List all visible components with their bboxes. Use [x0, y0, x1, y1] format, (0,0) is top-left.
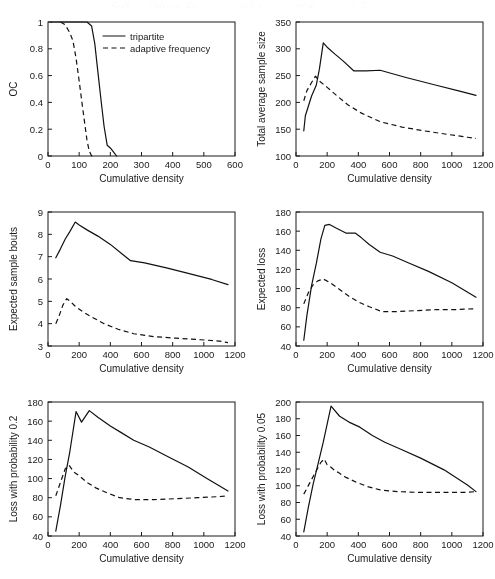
x-tick-label: 1000 — [193, 349, 214, 360]
y-axis-title: Loss with probability 0.05 — [256, 412, 267, 525]
legend-label: tripartite — [130, 31, 164, 42]
y-tick-label: 120 — [275, 464, 291, 475]
series-line-tripartite — [304, 43, 476, 131]
y-tick-label: 0.8 — [30, 43, 43, 54]
x-tick-label: 200 — [102, 159, 118, 170]
y-tick-label: 60 — [32, 511, 43, 522]
y-tick-label: 100 — [275, 480, 291, 491]
x-tick-label: 600 — [382, 159, 398, 170]
series-line-tripartite — [56, 411, 228, 532]
x-tick-label: 600 — [382, 349, 398, 360]
x-tick-label: 1000 — [441, 159, 462, 170]
y-tick-label: 160 — [275, 430, 291, 441]
x-axis-title: Cumulative density — [347, 363, 431, 374]
x-tick-label: 0 — [293, 159, 298, 170]
x-tick-label: 600 — [382, 539, 398, 550]
y-tick-label: 80 — [32, 492, 43, 503]
figure-panel-grid: 010020030040050060000.20.40.60.81Cumulat… — [0, 0, 495, 579]
y-tick-label: 1 — [38, 17, 43, 28]
y-tick-label: 300 — [275, 43, 291, 54]
x-axis-title: Cumulative density — [99, 363, 183, 374]
x-tick-label: 200 — [71, 349, 87, 360]
x-tick-label: 1200 — [224, 349, 245, 360]
series-line-adaptive-frequency — [304, 279, 476, 312]
y-tick-label: 120 — [275, 264, 291, 275]
x-axis-title: Cumulative density — [99, 553, 183, 564]
series-line-adaptive-frequency — [60, 22, 94, 156]
chart-panel-total-average-sample-size: 020040060080010001200100150200250300350C… — [248, 8, 495, 198]
chart-panel-loss-probability-0-2: 0200400600800100012004060801001201401601… — [0, 388, 247, 578]
y-tick-label: 140 — [27, 435, 43, 446]
x-tick-label: 0 — [45, 159, 50, 170]
y-tick-label: 0 — [38, 151, 43, 162]
chart-panel-expected-sample-bouts: 0200400600800100012003456789Cumulative d… — [0, 198, 247, 388]
y-tick-label: 180 — [275, 207, 291, 218]
y-axis-title: Expected loss — [256, 248, 267, 310]
x-axis-title: Cumulative density — [347, 553, 431, 564]
y-tick-label: 100 — [27, 473, 43, 484]
y-tick-label: 140 — [275, 447, 291, 458]
x-tick-label: 800 — [413, 349, 429, 360]
series-line-tripartite — [304, 224, 476, 340]
y-tick-label: 0.6 — [30, 70, 43, 81]
x-tick-label: 1200 — [472, 349, 493, 360]
y-tick-label: 100 — [275, 283, 291, 294]
y-tick-label: 0.4 — [30, 97, 43, 108]
y-tick-label: 200 — [275, 97, 291, 108]
plot-frame — [296, 212, 483, 346]
y-tick-label: 40 — [280, 531, 291, 542]
x-tick-label: 400 — [350, 349, 366, 360]
y-tick-label: 160 — [27, 416, 43, 427]
x-tick-label: 200 — [319, 349, 335, 360]
y-tick-label: 4 — [38, 318, 43, 329]
series-line-tripartite — [304, 406, 476, 532]
y-tick-label: 5 — [38, 296, 43, 307]
x-tick-label: 0 — [45, 349, 50, 360]
series-line-tripartite — [56, 222, 228, 285]
series-line-adaptive-frequency — [304, 76, 476, 138]
x-tick-label: 800 — [165, 349, 181, 360]
x-tick-label: 1200 — [224, 539, 245, 550]
series-line-adaptive-frequency — [56, 465, 228, 499]
x-tick-label: 1000 — [193, 539, 214, 550]
y-tick-label: 6 — [38, 274, 43, 285]
y-tick-label: 250 — [275, 70, 291, 81]
y-tick-label: 9 — [38, 207, 43, 218]
y-tick-label: 120 — [27, 454, 43, 465]
x-tick-label: 0 — [293, 349, 298, 360]
x-tick-label: 1000 — [441, 349, 462, 360]
y-axis-title: Expected sample bouts — [8, 227, 19, 331]
y-tick-label: 0.2 — [30, 124, 43, 135]
plot-frame — [48, 212, 235, 346]
x-tick-label: 1200 — [472, 159, 493, 170]
y-tick-label: 60 — [280, 321, 291, 332]
x-tick-label: 600 — [227, 159, 243, 170]
y-tick-label: 200 — [275, 397, 291, 408]
y-tick-label: 350 — [275, 17, 291, 28]
plot-frame — [48, 402, 235, 536]
x-tick-label: 400 — [165, 159, 181, 170]
x-tick-label: 100 — [71, 159, 87, 170]
y-tick-label: 40 — [280, 341, 291, 352]
y-axis-title: OC — [8, 82, 19, 97]
x-axis-title: Cumulative density — [347, 173, 431, 184]
x-tick-label: 500 — [196, 159, 212, 170]
x-axis-title: Cumulative density — [99, 173, 183, 184]
x-tick-label: 400 — [102, 539, 118, 550]
x-tick-label: 400 — [350, 159, 366, 170]
x-tick-label: 0 — [45, 539, 50, 550]
y-tick-label: 7 — [38, 251, 43, 262]
y-tick-label: 60 — [280, 514, 291, 525]
series-line-tripartite — [51, 22, 116, 156]
y-tick-label: 180 — [275, 413, 291, 424]
x-tick-label: 400 — [350, 539, 366, 550]
y-tick-label: 140 — [275, 245, 291, 256]
plot-frame — [296, 402, 483, 536]
y-axis-title: Loss with probability 0.2 — [8, 415, 19, 522]
y-tick-label: 100 — [275, 151, 291, 162]
x-tick-label: 800 — [165, 539, 181, 550]
x-tick-label: 300 — [134, 159, 150, 170]
x-tick-label: 1200 — [472, 539, 493, 550]
x-tick-label: 200 — [319, 539, 335, 550]
x-tick-label: 800 — [413, 539, 429, 550]
